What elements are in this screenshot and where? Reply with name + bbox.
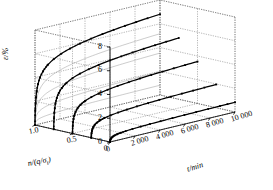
axis-lines (32, 47, 235, 145)
ghost-curves (35, 14, 160, 125)
figure-3d-creep-plot: ε/% n/(q/σt) t/min 024681.00.5002 0004 0… (0, 0, 273, 190)
plot-canvas (0, 0, 273, 190)
grid-lines (35, 0, 235, 142)
